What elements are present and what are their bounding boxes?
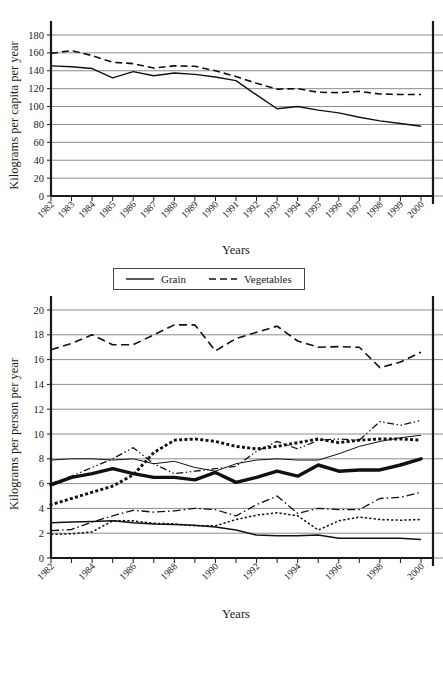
series-line-poultry	[51, 492, 421, 530]
x-tick-label: 1993	[262, 199, 283, 220]
y-tick-label: 0	[39, 191, 44, 202]
x-axis-title: Years	[222, 607, 250, 621]
y-axis-title: Kilograms per capita per year	[7, 40, 21, 189]
legend-swatch	[125, 274, 155, 284]
y-tick-label: 16	[34, 354, 45, 365]
x-tick-label: 1998	[364, 561, 385, 582]
x-tick-label: 1987	[138, 199, 159, 220]
series-line-eggs	[51, 420, 421, 483]
x-tick-label: 2000	[405, 199, 426, 220]
series-line-pork	[51, 325, 421, 368]
y-tick-label: 20	[34, 305, 45, 316]
x-tick-label: 1996	[323, 561, 344, 582]
chart1-canvas: 0204060801001201401601801982198319841985…	[0, 0, 443, 268]
y-tick-label: 100	[28, 101, 44, 112]
x-tick-label: 1997	[344, 199, 365, 220]
y-tick-label: 40	[34, 155, 45, 166]
x-tick-label: 1994	[282, 561, 303, 582]
plot-area: 0204060801001201401601801982198319841985…	[28, 21, 443, 220]
x-tick-label: 1982	[35, 561, 56, 582]
x-tick-label: 1996	[323, 199, 344, 220]
legend-item-grain[interactable]: Grain	[125, 273, 186, 285]
chart1-legend: GrainVegetables	[113, 268, 305, 290]
x-tick-label: 1984	[77, 199, 98, 220]
legend-swatch	[208, 274, 238, 284]
x-tick-label: 1985	[97, 199, 118, 220]
plot-area: 0246810121416182019821984198619881990199…	[34, 296, 443, 582]
x-tick-label: 1995	[303, 199, 324, 220]
series-line-vegetables	[51, 51, 421, 95]
y-axis-title: Kilograms per person per year	[7, 357, 21, 510]
x-tick-label: 1998	[364, 199, 385, 220]
chart2-canvas: 0246810121416182019821984198619881990199…	[0, 293, 443, 631]
series-line-seafood	[51, 435, 421, 471]
chart2-svg: 0246810121416182019821984198619881990199…	[0, 293, 443, 631]
legend-swatch-solid	[125, 274, 155, 284]
x-tick-label: 1988	[159, 199, 180, 220]
legend-label: Vegetables	[244, 273, 292, 285]
legend-label: Grain	[161, 273, 186, 285]
x-tick-label: 1983	[56, 199, 77, 220]
y-tick-label: 2	[39, 528, 44, 539]
y-tick-label: 140	[28, 65, 44, 76]
y-tick-label: 8	[39, 453, 44, 464]
x-tick-label: 1990	[200, 199, 221, 220]
y-tick-label: 14	[34, 379, 45, 390]
legend-swatch-dashed	[208, 274, 238, 284]
x-axis-title: Years	[222, 243, 250, 257]
y-tick-label: 180	[28, 30, 44, 41]
x-tick-label: 1999	[385, 199, 406, 220]
y-tick-label: 80	[34, 119, 45, 130]
x-tick-label: 1986	[118, 199, 139, 220]
x-tick-label: 1984	[77, 561, 98, 582]
legend-item-vegetables[interactable]: Vegetables	[208, 273, 292, 285]
y-tick-label: 18	[34, 329, 45, 340]
chart1-svg: 0204060801001201401601801982198319841985…	[0, 0, 443, 268]
x-tick-label: 1989	[179, 199, 200, 220]
y-tick-label: 6	[39, 478, 44, 489]
grain-vegetables-chart: 0204060801001201401601801982198319841985…	[0, 0, 443, 290]
y-tick-label: 10	[34, 429, 45, 440]
x-tick-label: 2000	[405, 561, 426, 582]
food-consumption-chart: 0246810121416182019821984198619881990199…	[0, 293, 443, 673]
x-tick-label: 1992	[241, 199, 262, 220]
x-tick-label: 1982	[35, 199, 56, 220]
y-tick-label: 120	[28, 83, 44, 94]
series-line-grain	[51, 66, 421, 126]
y-tick-label: 20	[34, 173, 45, 184]
x-tick-label: 1992	[241, 561, 262, 582]
y-tick-label: 12	[34, 404, 45, 415]
x-tick-label: 1986	[118, 561, 139, 582]
x-tick-label: 1991	[220, 199, 241, 220]
y-tick-label: 4	[39, 503, 45, 514]
x-tick-label: 1994	[282, 199, 303, 220]
series-line-oil	[51, 459, 421, 485]
x-tick-label: 1990	[200, 561, 221, 582]
x-tick-label: 1988	[159, 561, 180, 582]
y-tick-label: 60	[34, 137, 45, 148]
y-tick-label: 0	[39, 553, 44, 564]
y-tick-label: 160	[28, 47, 44, 58]
